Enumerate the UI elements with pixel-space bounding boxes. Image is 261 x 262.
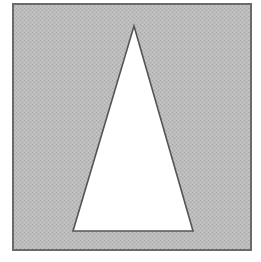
figure-canvas: Isosceles triangle on shaded square back… [0,0,261,262]
figure-svg [0,0,261,262]
